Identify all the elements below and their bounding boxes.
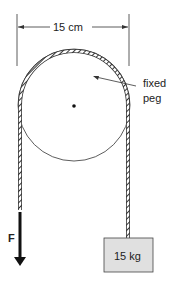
force-arrow-icon [14, 212, 26, 266]
peg-label-fixed: fixed [143, 77, 166, 89]
peg-center-dot [72, 104, 76, 108]
pulley-diagram [0, 0, 182, 286]
force-label: F [8, 232, 15, 244]
mass-label: 15 kg [114, 250, 141, 262]
rope-twist [20, 51, 128, 238]
dimension-label: 15 cm [53, 21, 83, 33]
rope [20, 51, 128, 238]
peg-pointer [96, 77, 136, 86]
peg-label-peg: peg [143, 92, 161, 104]
